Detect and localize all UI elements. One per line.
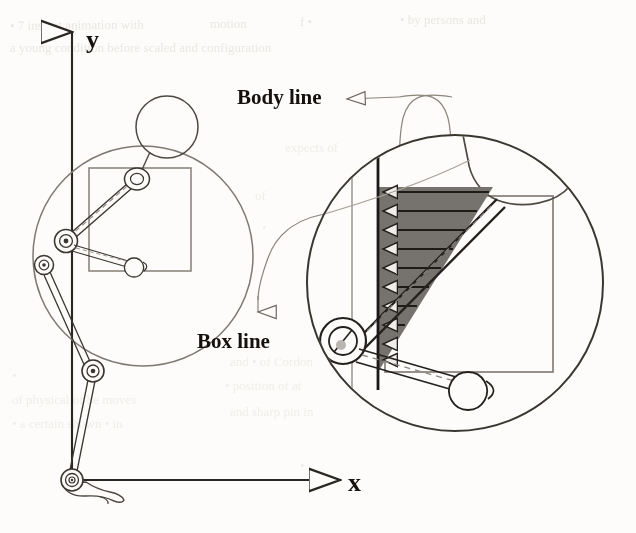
detail-contents <box>307 135 603 431</box>
x-axis-label: x <box>348 468 361 497</box>
svg-text:•: • <box>12 368 17 383</box>
svg-text:a young condition before scale: a young condition before scaled and conf… <box>10 40 272 55</box>
svg-text:•: • <box>262 220 267 235</box>
magnified-detail <box>307 135 603 431</box>
upper-leg-joint-overview <box>35 256 54 275</box>
svg-text:• by persons and: • by persons and <box>400 12 486 27</box>
svg-text:of: of <box>255 188 267 203</box>
shoulder-joint-overview <box>125 168 150 190</box>
body-line-label: Body line <box>237 85 322 109</box>
svg-text:of physical of be moves: of physical of be moves <box>12 392 136 407</box>
svg-text:•: • <box>300 458 305 473</box>
diagram-canvas: • 7 instant animation with motion f • • … <box>0 0 636 533</box>
svg-text:motion: motion <box>210 16 247 31</box>
svg-text:f •: f • <box>300 14 312 29</box>
figure-root: • 7 instant animation with motion f • • … <box>0 0 636 533</box>
box-line-label: Box line <box>197 329 270 353</box>
y-axis-label: y <box>86 25 99 54</box>
svg-text:and sharp pin in: and sharp pin in <box>230 404 314 419</box>
svg-text:• a certain shown • in: • a certain shown • in <box>12 416 123 431</box>
hand-overview <box>125 258 144 277</box>
svg-text:expects of: expects of <box>285 140 339 155</box>
hip-joint-overview <box>55 230 78 253</box>
svg-text:• position of at: • position of at <box>225 378 302 393</box>
svg-text:and • of Cordon: and • of Cordon <box>230 354 313 369</box>
svg-text:• 7 instant animation with: • 7 instant animation with <box>10 17 144 33</box>
knee-joint-overview <box>82 360 104 382</box>
ankle-joint-overview <box>61 469 83 491</box>
hand-detail <box>449 372 487 410</box>
